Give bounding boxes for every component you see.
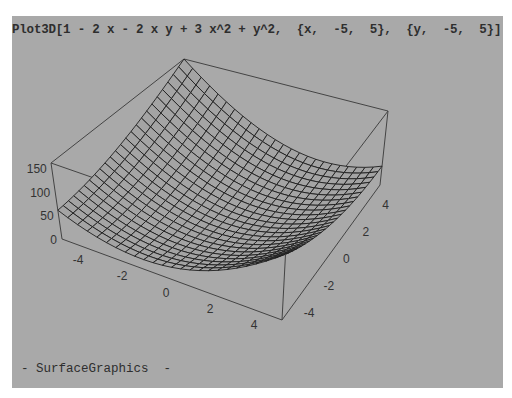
y-tick-label: -4 <box>304 306 315 320</box>
y-tick-label: -2 <box>323 279 334 293</box>
surface-plot: -4-2024-4-2024050100150 <box>0 0 512 398</box>
surface-mesh <box>58 59 382 271</box>
y-tick-label: 2 <box>363 225 370 239</box>
y-tick-label: 0 <box>343 252 350 266</box>
x-tick-label: 4 <box>251 318 258 332</box>
z-axis-edge <box>51 163 62 239</box>
z-tick-label: 100 <box>30 186 50 200</box>
z-tick-label: 50 <box>40 209 54 223</box>
y-tick-label: 4 <box>382 198 389 212</box>
output-cell-surfacegraphics[interactable]: - SurfaceGraphics - <box>21 362 171 376</box>
z-tick-label: 150 <box>27 162 47 176</box>
x-tick-label: 0 <box>163 286 170 300</box>
x-tick-label: -2 <box>117 269 128 283</box>
x-tick-label: 2 <box>207 302 214 316</box>
z-tick-label: 0 <box>50 233 57 247</box>
x-tick-label: -4 <box>73 253 84 267</box>
box-edge <box>380 111 388 185</box>
box-edge <box>282 254 286 320</box>
